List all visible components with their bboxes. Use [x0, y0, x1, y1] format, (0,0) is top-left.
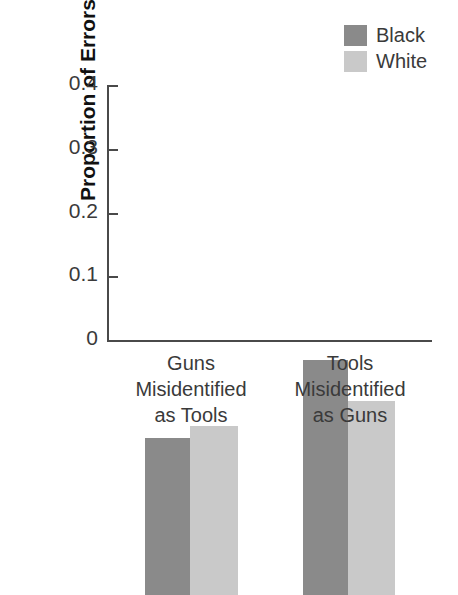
y-axis-title: Proportion of Errors	[76, 0, 100, 215]
legend-item-black: Black	[344, 22, 454, 48]
y-tick-label-0.4: 0.4	[69, 71, 98, 95]
bar-tools-misidentified-as-guns-white	[348, 401, 395, 595]
bar-guns-misidentified-as-tools-white	[190, 426, 238, 595]
x-axis-line	[107, 340, 432, 342]
legend-swatch-black-icon	[344, 25, 367, 46]
legend-label-black: Black	[376, 25, 425, 46]
legend-swatch-white-icon	[344, 51, 367, 72]
x-category-label-guns-line1: Guns	[114, 350, 268, 376]
y-tick-0.1: 0.1	[107, 276, 118, 278]
bar-guns-misidentified-as-tools-black	[145, 438, 190, 595]
x-category-label-tools-line2: Misidentified	[272, 376, 428, 402]
chart-legend: Black White	[344, 22, 454, 74]
x-category-label-tools: Tools Misidentified as Guns	[272, 350, 428, 428]
y-tick-label-0.3: 0.3	[69, 134, 98, 158]
x-category-label-guns: Guns Misidentified as Tools	[114, 350, 268, 428]
x-category-label-tools-line1: Tools	[272, 350, 428, 376]
y-tick-label-0: 0	[86, 326, 98, 350]
legend-item-white: White	[344, 48, 454, 74]
y-tick-label-0.1: 0.1	[69, 262, 98, 286]
plot-area: 0.4 0.3 0.2 0.1 0	[107, 85, 432, 340]
y-tick-0.4: 0.4	[107, 85, 118, 87]
y-tick-label-0.2: 0.2	[69, 198, 98, 222]
x-category-label-guns-line2: Misidentified	[114, 376, 268, 402]
y-tick-0.2: 0.2	[107, 213, 118, 215]
legend-label-white: White	[376, 51, 427, 72]
y-tick-0: 0	[107, 340, 118, 342]
x-category-label-guns-line3: as Tools	[114, 402, 268, 428]
x-category-label-tools-line3: as Guns	[272, 402, 428, 428]
y-tick-0.3: 0.3	[107, 149, 118, 151]
